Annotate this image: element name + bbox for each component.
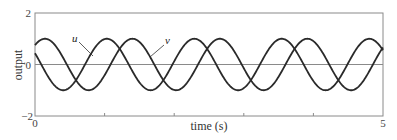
x-axis-label: time (s): [191, 119, 228, 133]
line-chart: u v 2 0 −2 0 5 time (s) output: [0, 0, 397, 140]
series-v-leader: [150, 45, 164, 57]
x-tick-label-left: 0: [32, 117, 38, 129]
y-axis-label: output: [11, 49, 25, 80]
x-tick-label-right: 5: [380, 117, 386, 129]
y-tick-label-bottom: −2: [21, 110, 33, 122]
series-u-label: u: [72, 32, 78, 44]
y-tick-label-zero: 0: [26, 59, 32, 71]
y-tick-label-top: 2: [26, 7, 32, 19]
series-u-leader: [79, 42, 93, 56]
series-v-label: v: [165, 34, 170, 46]
